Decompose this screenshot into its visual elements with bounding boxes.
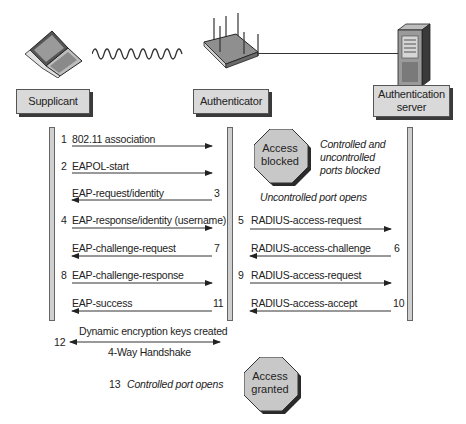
step-7-label: EAP-challenge-request (72, 242, 176, 254)
step-5-number: 5 (238, 214, 244, 226)
access-granted-text: Access granted (251, 370, 288, 396)
step-11-number: 11 (213, 297, 224, 309)
uncontrolled-port-opens-note: Uncontrolled port opens (260, 191, 367, 203)
step-12-label-bottom: 4-Way Handshake (108, 346, 191, 358)
access-blocked-line1: Access (262, 142, 297, 154)
step-2-number: 2 (61, 160, 67, 172)
ports-blocked-note-line3: ports blocked (320, 164, 380, 176)
step-3-label: EAP-request/identity (72, 187, 164, 199)
step-9-label: RADIUS-access-request (251, 269, 361, 281)
step-13-number: 13 (109, 378, 120, 390)
step-5-label: RADIUS-access-request (251, 214, 361, 226)
step-4-number: 4 (61, 214, 67, 226)
message-arrows (0, 0, 466, 424)
access-blocked-octagon: Access blocked (254, 129, 310, 185)
step-10-label: RADIUS-access-accept (251, 297, 357, 309)
step-7-number: 7 (214, 242, 220, 254)
step-3-number: 3 (214, 187, 220, 199)
step-4-label: EAP-response/identity (username) (72, 214, 226, 226)
step-10-number: 10 (393, 297, 404, 309)
access-granted-octagon: Access granted (244, 357, 300, 413)
access-blocked-text: Access blocked (261, 142, 299, 168)
ports-blocked-note-line2: uncontrolled (320, 151, 375, 163)
step-8-number: 8 (61, 269, 67, 281)
step-13-label: Controlled port opens (127, 378, 223, 390)
access-granted-line2: granted (251, 383, 288, 395)
access-granted-line1: Access (252, 370, 287, 382)
step-9-number: 9 (238, 269, 244, 281)
step-6-label: RADIUS-access-challenge (251, 242, 371, 254)
access-blocked-line2: blocked (261, 155, 299, 167)
step-1-number: 1 (61, 133, 67, 145)
ports-blocked-note-line1: Controlled and (320, 138, 386, 150)
step-12-number: 12 (54, 336, 65, 348)
step-2-label: EAPOL-start (72, 160, 129, 172)
step-1-label: 802.11 association (72, 133, 155, 145)
step-6-number: 6 (394, 242, 400, 254)
step-12-label-top: Dynamic encryption keys created (79, 325, 227, 337)
step-8-label: EAP-challenge-response (72, 269, 184, 281)
step-11-label: EAP-success (72, 297, 132, 309)
